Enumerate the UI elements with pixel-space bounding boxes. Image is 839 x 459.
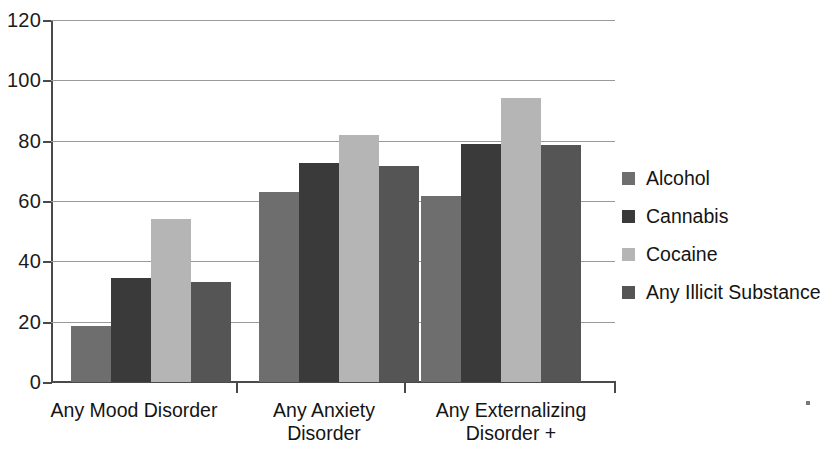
bar-externalizing-cannabis[interactable] — [461, 144, 501, 382]
bar-mood-cannabis[interactable] — [111, 278, 151, 382]
page-speck — [806, 401, 810, 405]
category-separator-1 — [236, 382, 238, 393]
bar-externalizing-alcohol[interactable] — [421, 196, 461, 382]
y-tick-60: 60 — [0, 191, 41, 211]
legend-swatch-icon — [622, 172, 635, 185]
y-tick-120: 120 — [0, 10, 41, 30]
plot-area — [51, 20, 615, 382]
category-label-any-externalizing-disorder: Any Externalizing Disorder + — [408, 399, 614, 445]
bar-externalizing-cocaine[interactable] — [501, 98, 541, 382]
y-tick-100: 100 — [0, 70, 41, 90]
legend-item-cannabis[interactable]: Cannabis — [622, 197, 821, 235]
legend: Alcohol Cannabis Cocaine Any Illicit Sub… — [622, 159, 821, 311]
category-separator-2 — [404, 382, 406, 393]
bar-anxiety-cocaine[interactable] — [339, 135, 379, 382]
bar-mood-alcohol[interactable] — [71, 326, 111, 382]
y-tick-20: 20 — [0, 312, 41, 332]
category-label-line: Any Anxiety — [244, 399, 404, 422]
category-label-line: Disorder — [244, 422, 404, 445]
y-tick-label-100: 100 — [1, 70, 41, 90]
y-tick-80: 80 — [0, 131, 41, 151]
category-label-line: Disorder + — [408, 422, 614, 445]
gridline-120 — [51, 20, 615, 21]
y-tick-label-120: 120 — [1, 10, 41, 30]
legend-swatch-icon — [622, 286, 635, 299]
y-tick-label-20: 20 — [1, 312, 41, 332]
bar-mood-cocaine[interactable] — [151, 219, 191, 382]
y-tick-label-0: 0 — [1, 372, 41, 392]
legend-swatch-icon — [622, 248, 635, 261]
legend-label-cannabis: Cannabis — [646, 205, 728, 227]
legend-label-cocaine: Cocaine — [646, 243, 718, 265]
gridline-100 — [51, 80, 615, 81]
category-label-any-mood-disorder: Any Mood Disorder — [34, 399, 234, 422]
y-tick-0: 0 — [0, 372, 41, 392]
legend-item-cocaine[interactable]: Cocaine — [622, 235, 821, 273]
y-tick-label-80: 80 — [1, 131, 41, 151]
legend-label-alcohol: Alcohol — [646, 167, 710, 189]
bar-mood-any-illicit[interactable] — [191, 282, 231, 382]
bar-anxiety-any-illicit[interactable] — [379, 166, 419, 382]
bar-externalizing-any-illicit[interactable] — [541, 145, 581, 382]
legend-item-alcohol[interactable]: Alcohol — [622, 159, 821, 197]
category-label-line: Any Externalizing — [408, 399, 614, 422]
legend-item-any-illicit-substance[interactable]: Any Illicit Substance — [622, 273, 821, 311]
category-label-line: Any Mood Disorder — [34, 399, 234, 422]
bar-anxiety-alcohol[interactable] — [259, 192, 299, 382]
legend-label-any-illicit-substance: Any Illicit Substance — [646, 281, 821, 303]
y-tick-40: 40 — [0, 251, 41, 271]
y-tick-label-40: 40 — [1, 251, 41, 271]
bar-chart-figure: 120 100 80 60 40 20 0 — [0, 0, 839, 459]
legend-swatch-icon — [622, 210, 635, 223]
bar-anxiety-cannabis[interactable] — [299, 163, 339, 382]
category-separator-3 — [614, 382, 616, 393]
category-label-any-anxiety-disorder: Any Anxiety Disorder — [244, 399, 404, 445]
y-tick-label-60: 60 — [1, 191, 41, 211]
